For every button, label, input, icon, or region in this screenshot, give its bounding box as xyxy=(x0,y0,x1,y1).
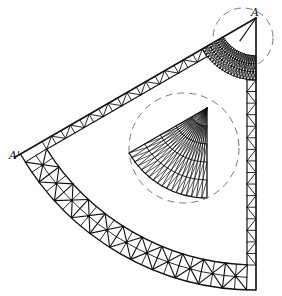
sector-truss-diagram: A A' xyxy=(0,0,282,296)
label-a-prime: A' xyxy=(8,149,20,162)
outer-arc-truss-band xyxy=(20,149,256,290)
label-a: A xyxy=(250,6,259,19)
inner-fan-truss xyxy=(129,108,207,198)
right-edge-truss xyxy=(247,80,256,265)
diagram-canvas: A A' xyxy=(0,0,282,296)
detail-circles xyxy=(129,8,273,203)
